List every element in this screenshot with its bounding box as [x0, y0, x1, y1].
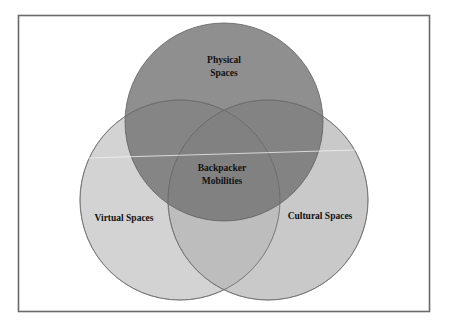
label-center-line1: Backpacker	[198, 163, 247, 173]
label-physical-line2: Spaces	[210, 68, 238, 78]
label-virtual-spaces: Virtual Spaces	[94, 213, 153, 223]
label-cultural-spaces: Cultural Spaces	[288, 211, 353, 221]
circle-physical-spaces	[125, 23, 323, 221]
venn-diagram: Physical Spaces Backpacker Mobilities Vi…	[0, 0, 449, 326]
label-center-line2: Mobilities	[202, 176, 243, 186]
label-physical-line1: Physical	[207, 55, 241, 65]
